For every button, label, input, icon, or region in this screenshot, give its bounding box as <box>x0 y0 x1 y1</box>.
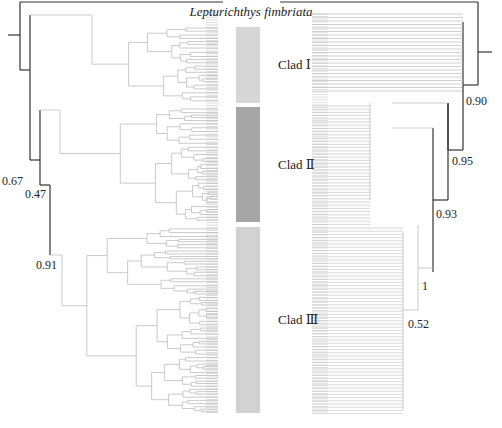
clade-bar-2 <box>236 107 260 222</box>
left-support-value: 0.91 <box>36 259 57 271</box>
phylogeny-figure: Lepturichthys fimbriata Clad Ⅰ Clad Ⅱ Cl… <box>0 0 502 428</box>
left-support-value: 0.47 <box>25 188 46 200</box>
right-support-value: 0.95 <box>452 155 473 167</box>
clade-bar-1 <box>236 27 260 103</box>
right-support-value: 0.93 <box>436 208 457 220</box>
right-support-value: 0.90 <box>466 95 487 107</box>
right-support-value: 1 <box>422 280 428 292</box>
clade-label-2: Clad Ⅱ <box>278 157 315 173</box>
clade-label-3: Clad Ⅲ <box>278 312 318 328</box>
clade-bar-3 <box>236 227 260 413</box>
outgroup-label: Lepturichthys fimbriata <box>0 4 502 20</box>
clade-label-1: Clad Ⅰ <box>278 57 311 73</box>
right-support-value: 0.52 <box>408 318 429 330</box>
left-support-value: 0.67 <box>2 175 23 187</box>
